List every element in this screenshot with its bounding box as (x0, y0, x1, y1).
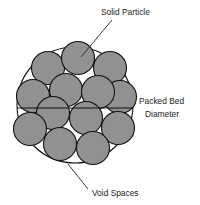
void-spaces-leader-line (68, 164, 88, 189)
packed-bed-diameter-label-line2: Diameter (145, 109, 179, 119)
solid-particle (14, 113, 47, 146)
packed-bed-diagram: Solid Particle Packed Bed Diameter Void … (0, 0, 200, 205)
solid-particle (44, 128, 77, 161)
solid-particle-label: Solid Particle (101, 7, 150, 17)
packed-bed-diameter-label-line1: Packed Bed (139, 96, 185, 106)
solid-particles-group (14, 42, 137, 165)
packed-bed-figure: Solid Particle Packed Bed Diameter Void … (0, 0, 200, 205)
void-spaces-label: Void Spaces (92, 188, 139, 198)
solid-particle (70, 102, 103, 135)
solid-particle (77, 132, 110, 165)
